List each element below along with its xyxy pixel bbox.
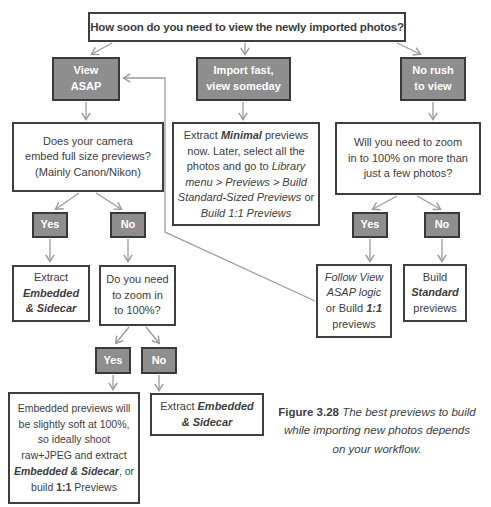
follow-view-asap-text: Follow View ASAP logic or Build 1:1 prev… xyxy=(321,270,387,332)
node-extract-minimal: Extract Minimal previews now. Later, sel… xyxy=(172,122,320,226)
camera-q-line1: Does your camera xyxy=(43,134,133,150)
node-embedded-soft-note: Embedded previews will be slightly soft … xyxy=(8,392,140,504)
node-import-fast-line2: view someday xyxy=(206,79,281,95)
arrow-zoom-many-q-to-yes xyxy=(373,196,397,209)
extract-minimal-text: Extract Minimal previews now. Later, sel… xyxy=(178,129,314,219)
node-extract-embedded-sidecar-bottom: Extract Embedded & Sidecar xyxy=(150,393,264,436)
node-zoom-many-question: Will you need to zoom in to 100% on more… xyxy=(335,122,481,195)
arrow-root-to-no-rush xyxy=(397,43,420,54)
node-zoom-100-yes: Yes xyxy=(95,347,131,374)
node-import-fast-line1: Import fast, xyxy=(214,63,274,79)
figure-caption-label: Figure 3.28 xyxy=(278,406,339,418)
node-no-rush-line2: to view xyxy=(414,79,451,95)
node-extract-embedded-sidecar: Extract Embedded & Sidecar xyxy=(12,265,90,322)
node-view-asap-line2: ASAP xyxy=(71,79,102,95)
arrow-zoom-100-q-to-no xyxy=(146,327,159,343)
arrow-zoom-100-q-to-yes xyxy=(116,327,129,343)
camera-q-line2: embed full size previews? xyxy=(25,149,151,165)
arrow-zoom-many-q-to-no xyxy=(417,196,440,209)
zoom-many-q-line1: Will you need to zoom xyxy=(354,135,462,151)
node-view-asap: View ASAP xyxy=(52,57,120,101)
node-no-rush-line1: No rush xyxy=(412,63,454,79)
node-zoom-100-question: Do you need to zoom in to 100%? xyxy=(99,265,176,326)
arrow-root-to-view-asap xyxy=(92,43,112,54)
node-zoom-many-yes: Yes xyxy=(352,212,388,238)
node-import-fast: Import fast, view someday xyxy=(196,57,291,101)
build-standard-text: Build Standard previews xyxy=(408,270,462,317)
arrow-camera-q-to-yes xyxy=(56,193,79,209)
node-view-asap-line1: View xyxy=(74,63,99,79)
zoom-many-q-line3: just a few photos? xyxy=(364,166,453,182)
zoom-many-q-line2: in to 100% on more than xyxy=(348,151,468,167)
extract-embedded-sidecar-bottom-text: Extract Embedded & Sidecar xyxy=(155,399,259,430)
flowchart-previews-decision: How soon do you need to view the newly i… xyxy=(0,0,491,507)
figure-caption: Figure 3.28 The best previews to build w… xyxy=(276,403,478,458)
arrow-camera-q-to-no xyxy=(96,193,121,209)
node-root-question-text: How soon do you need to view the newly i… xyxy=(90,19,404,35)
node-camera-no: No xyxy=(110,212,146,238)
node-no-rush: No rush to view xyxy=(400,57,466,101)
node-zoom-many-no: No xyxy=(424,212,460,238)
node-zoom-100-no: No xyxy=(141,347,177,374)
node-build-standard: Build Standard previews xyxy=(403,264,467,322)
camera-q-line3: (Mainly Canon/Nikon) xyxy=(35,165,141,181)
embedded-soft-text: Embedded previews will be slightly soft … xyxy=(13,401,135,496)
node-camera-yes: Yes xyxy=(32,212,68,238)
node-camera-embed-question: Does your camera embed full size preview… xyxy=(12,122,164,192)
node-follow-view-asap: Follow View ASAP logic or Build 1:1 prev… xyxy=(316,264,392,338)
node-root-question: How soon do you need to view the newly i… xyxy=(88,12,406,42)
